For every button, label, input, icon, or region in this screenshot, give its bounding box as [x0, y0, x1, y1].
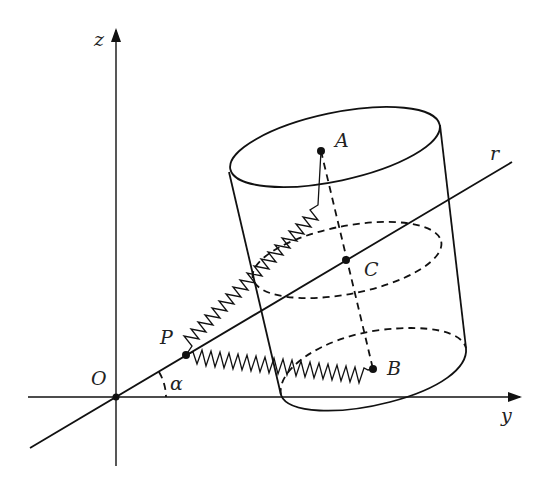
point-C	[342, 256, 350, 264]
origin-label: O	[91, 367, 107, 389]
point-B-label: B	[386, 357, 401, 379]
y-axis-label: y	[500, 404, 512, 426]
point-A	[317, 147, 325, 155]
point-P-label: P	[159, 326, 174, 348]
line-r-label: r	[490, 142, 501, 164]
spring-PB	[186, 350, 373, 383]
point-B	[369, 365, 377, 373]
line-r	[30, 162, 512, 448]
cylinder-right-side	[440, 125, 466, 348]
point-P	[182, 351, 190, 359]
point-C-label: C	[364, 258, 379, 280]
cylinder-bottom-back	[281, 328, 466, 395]
spring-PA	[184, 151, 321, 355]
angle-alpha-arc	[159, 372, 166, 397]
angle-alpha-label: α	[170, 372, 183, 394]
cylinder-spring-diagram: z y O r α P A C B	[0, 0, 547, 484]
point-A-label: A	[333, 129, 349, 151]
cylinder-bottom-front	[281, 348, 466, 411]
z-axis-label: z	[93, 28, 105, 50]
